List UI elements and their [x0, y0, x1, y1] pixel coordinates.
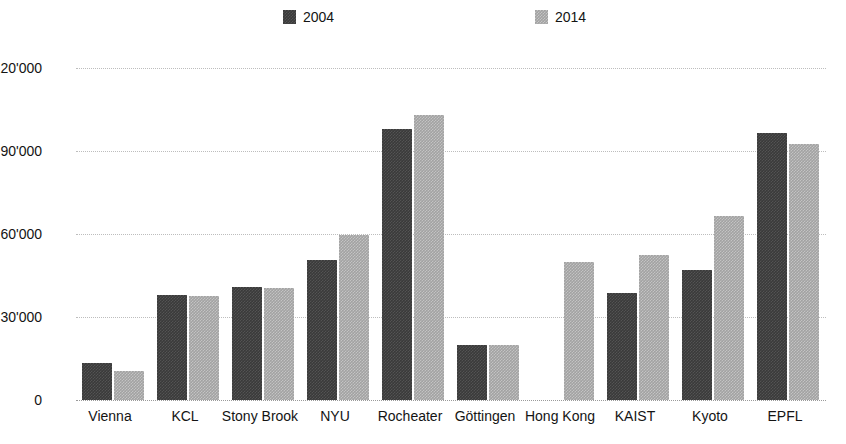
bar-2014: [414, 115, 444, 400]
bar-2004: [457, 345, 487, 400]
bar-group: [451, 68, 519, 400]
bar-2004: [607, 293, 637, 400]
bar-2004: [232, 287, 262, 400]
y-axis-tick-label: 30'000: [0, 310, 42, 324]
bar-2014: [489, 345, 519, 400]
bar-group: [751, 68, 819, 400]
legend-swatch-2004: [283, 10, 296, 24]
bar-group: [151, 68, 219, 400]
bar-2014: [339, 235, 369, 400]
bar-2014: [789, 144, 819, 400]
y-axis-tick-label: 0: [0, 393, 42, 407]
bar-2004: [307, 260, 337, 400]
legend-label-2004: 2004: [303, 10, 334, 24]
y-axis-tick-label: 60'000: [0, 227, 42, 241]
bar-2014: [564, 262, 594, 400]
bar-group: [601, 68, 669, 400]
bar-group: [526, 68, 594, 400]
plot-area: 030'00060'00090'000120'000ViennaKCLStony…: [76, 68, 826, 400]
bar-2004: [382, 129, 412, 400]
bar-group: [301, 68, 369, 400]
legend-label-2014: 2014: [555, 10, 586, 24]
legend-entry-2014: 2014: [535, 10, 586, 24]
bar-2014: [714, 216, 744, 400]
legend-entry-2004: 2004: [283, 10, 334, 24]
bar-2004: [757, 133, 787, 400]
legend-swatch-2014: [535, 10, 548, 24]
y-axis-tick-label: 120'000: [0, 61, 42, 75]
bar-2014: [189, 296, 219, 400]
bar-2014: [639, 255, 669, 400]
x-axis-tick-label: EPFL: [715, 408, 846, 424]
bar-2004: [82, 363, 112, 400]
x-axis-baseline: [76, 400, 826, 401]
bar-2014: [114, 371, 144, 400]
bar-2014: [264, 288, 294, 400]
bar-group: [76, 68, 144, 400]
bar-2004: [157, 295, 187, 400]
chart-legend: 2004 2014: [0, 10, 846, 34]
bar-group: [376, 68, 444, 400]
bar-group: [226, 68, 294, 400]
bar-group: [676, 68, 744, 400]
bar-2004: [682, 270, 712, 400]
bar-chart: 2004 2014 030'00060'00090'000120'000Vien…: [0, 0, 846, 444]
y-axis-tick-label: 90'000: [0, 144, 42, 158]
